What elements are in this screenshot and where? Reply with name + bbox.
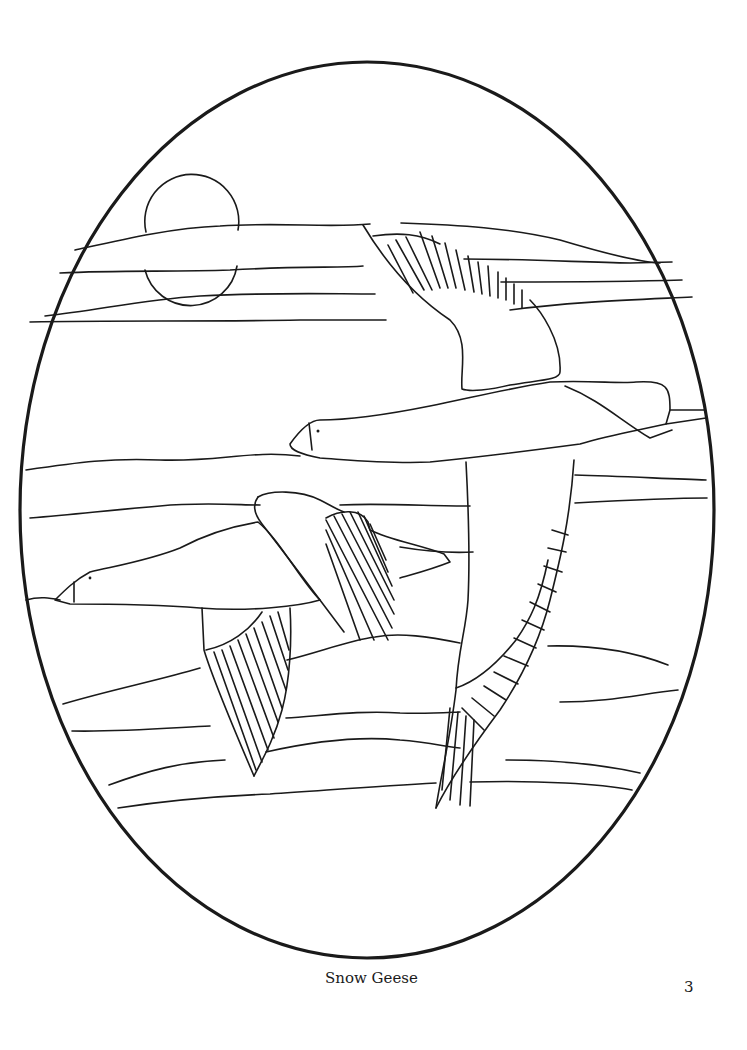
illustration-caption: Snow Geese	[0, 969, 747, 987]
coloring-illustration	[0, 0, 747, 1050]
oval-frame	[20, 62, 714, 958]
small-goose	[55, 492, 450, 776]
sky-bands	[26, 223, 707, 808]
sun	[145, 174, 239, 305]
page-number: 3	[684, 978, 694, 996]
caption-text: Snow Geese	[325, 969, 418, 987]
